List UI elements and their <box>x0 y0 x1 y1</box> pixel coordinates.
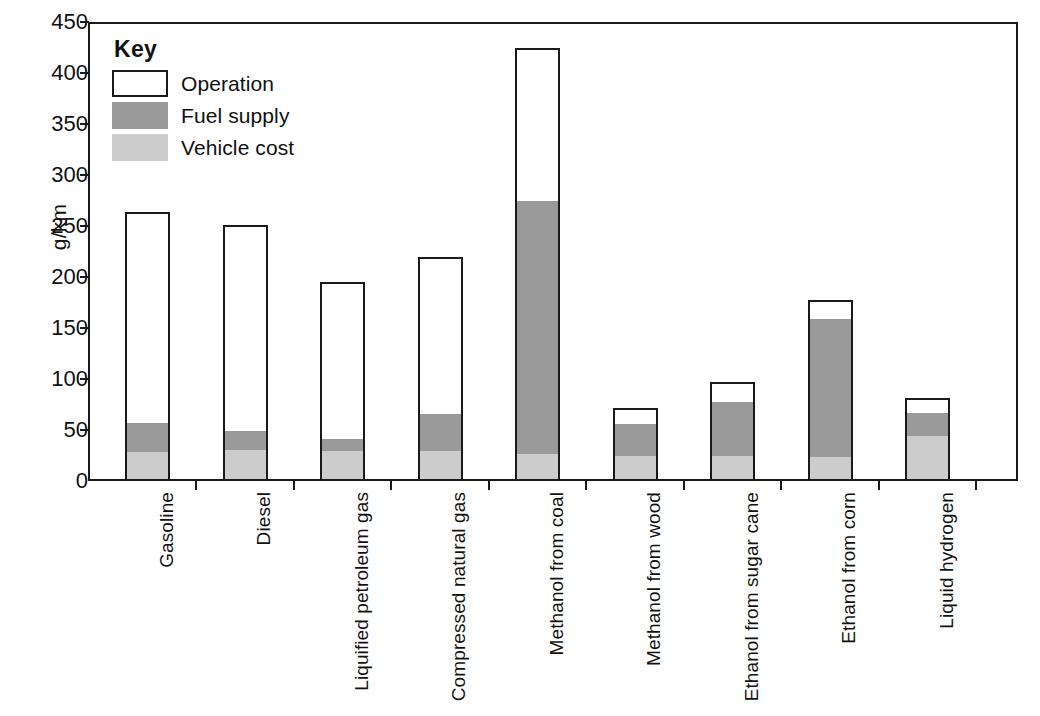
bar-segment-vehicle-cost <box>712 456 753 479</box>
x-axis-label: Liquid hydrogen <box>936 492 958 629</box>
x-axis-tick-mark <box>293 481 295 490</box>
bar-segment-fuel-supply <box>907 413 948 436</box>
bar-methanol-from-coal[interactable] <box>515 48 560 482</box>
x-axis-tick-mark <box>195 481 197 490</box>
bar-segment-fuel-supply <box>322 439 363 451</box>
x-axis-label: Compressed natural gas <box>448 492 470 701</box>
legend-swatch-operation-icon <box>112 70 168 97</box>
bar-liquified-petroleum-gas[interactable] <box>320 282 365 481</box>
bar-methanol-from-wood[interactable] <box>613 408 658 481</box>
bar-segment-operation <box>615 410 656 424</box>
bar-segment-operation <box>127 214 168 423</box>
x-axis-tick-mark <box>683 481 685 490</box>
legend-label-operation: Operation <box>181 72 274 96</box>
bar-segment-operation <box>712 384 753 402</box>
bar-segment-fuel-supply <box>517 201 558 454</box>
bar-segment-vehicle-cost <box>322 451 363 479</box>
bar-segment-operation <box>225 227 266 431</box>
bar-segment-operation <box>517 50 558 202</box>
bar-segment-fuel-supply <box>615 424 656 456</box>
legend-item-operation: Operation <box>112 70 342 97</box>
legend-label-fuel-supply: Fuel supply <box>181 104 290 128</box>
x-axis-tick-mark <box>585 481 587 490</box>
bar-segment-fuel-supply <box>225 431 266 450</box>
bar-segment-operation <box>322 284 363 439</box>
bar-segment-operation <box>810 302 851 319</box>
bar-liquid-hydrogen[interactable] <box>905 398 950 481</box>
x-axis-tick-mark <box>390 481 392 490</box>
x-axis-label: Diesel <box>253 492 275 545</box>
bar-ethanol-from-corn[interactable] <box>808 300 853 481</box>
bar-segment-fuel-supply <box>420 414 461 451</box>
bar-segment-operation <box>420 259 461 414</box>
x-axis-tick-mark <box>780 481 782 490</box>
legend-swatch-fuel-supply-icon <box>112 102 168 129</box>
legend-label-vehicle-cost: Vehicle cost <box>181 136 294 160</box>
bar-segment-operation <box>907 400 948 413</box>
x-axis-tick-mark <box>488 481 490 490</box>
bar-segment-vehicle-cost <box>517 454 558 479</box>
bar-ethanol-from-sugar-cane[interactable] <box>710 382 755 481</box>
bar-segment-fuel-supply <box>127 423 168 452</box>
bar-segment-vehicle-cost <box>127 452 168 479</box>
stacked-bar-chart: g/km 050100150200250300350400450 Gasolin… <box>0 0 1040 716</box>
x-axis-label: Ethanol from corn <box>838 492 860 644</box>
bar-segment-vehicle-cost <box>225 450 266 479</box>
bar-segment-vehicle-cost <box>615 456 656 479</box>
x-axis-label: Methanol from wood <box>643 492 665 666</box>
bar-compressed-natural-gas[interactable] <box>418 257 463 481</box>
x-axis-label: Methanol from coal <box>546 492 568 655</box>
x-axis-label: Gasoline <box>156 492 178 568</box>
bar-segment-fuel-supply <box>810 319 851 457</box>
x-axis-tick-mark <box>878 481 880 490</box>
bar-segment-vehicle-cost <box>420 451 461 479</box>
bar-segment-vehicle-cost <box>810 457 851 479</box>
legend-swatch-vehicle-cost-icon <box>112 134 168 161</box>
legend-item-fuel-supply: Fuel supply <box>112 102 342 129</box>
legend-title: Key <box>114 36 342 63</box>
legend-item-vehicle-cost: Vehicle cost <box>112 134 342 161</box>
x-axis-label: Ethanol from sugar cane <box>741 492 763 701</box>
bar-segment-fuel-supply <box>712 402 753 456</box>
bar-diesel[interactable] <box>223 225 268 481</box>
bar-segment-vehicle-cost <box>907 436 948 479</box>
x-axis-tick-mark <box>975 481 977 490</box>
legend: Key Operation Fuel supply Vehicle cost <box>112 36 342 166</box>
bar-gasoline[interactable] <box>125 212 170 481</box>
x-axis-label: Liquified petroleum gas <box>351 492 373 691</box>
